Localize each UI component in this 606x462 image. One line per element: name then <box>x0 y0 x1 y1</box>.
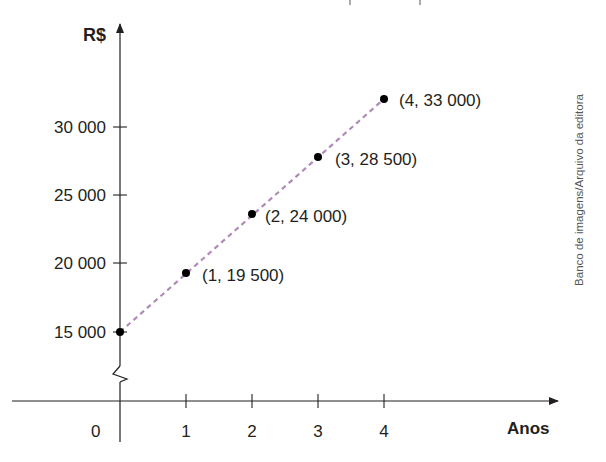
data-point <box>380 95 388 103</box>
data-point <box>182 269 190 277</box>
y-axis-title: R$ <box>83 25 106 45</box>
point-label: (3, 28 500) <box>335 150 417 169</box>
data-point <box>314 153 322 161</box>
data-point <box>116 328 124 336</box>
y-axis <box>113 24 127 442</box>
x-axis-title: Anos <box>507 419 550 438</box>
x-tick-label: 1 <box>181 422 190 441</box>
x-tick-label: 2 <box>247 422 256 441</box>
x-tick-label: 4 <box>379 422 388 441</box>
y-tick-label: 25 000 <box>54 186 106 205</box>
point-label: (1, 19 500) <box>202 266 284 285</box>
x-axis <box>12 394 558 408</box>
point-label: (4, 33 000) <box>399 91 481 110</box>
line-chart: R$ Anos 0 1 2 3 4 30 000 25 000 20 000 1… <box>0 0 606 462</box>
axis-break-icon <box>113 366 127 382</box>
image-credit: Banco de imagens/Arquivo da editora <box>573 94 585 286</box>
y-tick-label: 20 000 <box>54 254 106 273</box>
data-point <box>248 210 256 218</box>
y-tick-label: 30 000 <box>54 118 106 137</box>
x-tick-label: 3 <box>313 422 322 441</box>
y-tick-label: 15 000 <box>54 323 106 342</box>
origin-label: 0 <box>91 422 100 441</box>
point-label: (2, 24 000) <box>265 207 347 226</box>
